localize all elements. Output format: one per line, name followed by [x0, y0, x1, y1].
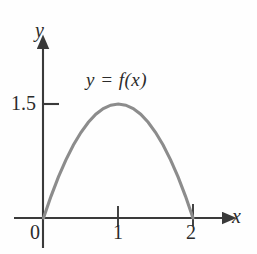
- function-curve: [44, 104, 194, 218]
- function-graph-figure: y x y = f(x) 0 1 2 1.5: [0, 0, 257, 254]
- x-tick-label-1: 1: [113, 222, 123, 242]
- curve-equation-label: y = f(x): [86, 70, 147, 89]
- x-tick-label-2: 2: [186, 222, 196, 242]
- y-axis-label: y: [35, 20, 44, 40]
- x-axis-label: x: [232, 206, 241, 226]
- y-tick-label-1-5: 1.5: [11, 93, 36, 113]
- origin-tick-label: 0: [30, 222, 40, 242]
